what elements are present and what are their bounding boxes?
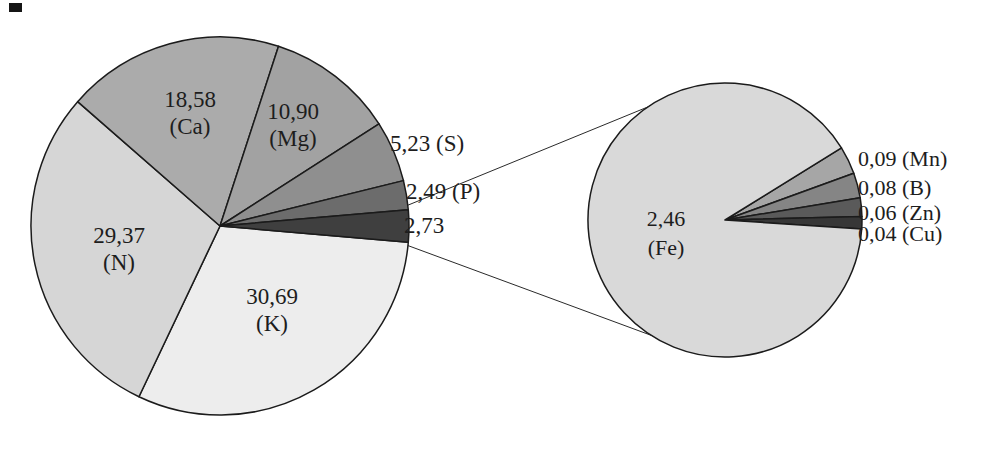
label-s-value: 5,23 (S) [390, 131, 464, 156]
label-k-value: 30,69 [246, 284, 298, 309]
label-n-value: 29,37 [93, 223, 145, 248]
figure: 30,69(K)29,37(N)18,58(Ca)10,90(Mg)5,23 (… [0, 0, 990, 450]
label-mg-name: (Mg) [269, 126, 316, 151]
pie-of-pie-chart: 30,69(K)29,37(N)18,58(Ca)10,90(Mg)5,23 (… [0, 0, 990, 450]
secondary-pie [588, 83, 862, 357]
label-ca-name: (Ca) [170, 114, 211, 139]
label-fe-value: 2,46 [647, 206, 686, 231]
label-b-value: 0,08 (B) [858, 175, 931, 200]
main-pie [31, 37, 409, 415]
label-other-value: 2,73 [404, 213, 444, 238]
label-ca-value: 18,58 [164, 87, 216, 112]
scan-artifact-mark [9, 3, 22, 12]
label-mg-value: 10,90 [267, 99, 319, 124]
label-fe-name: (Fe) [648, 235, 685, 260]
label-cu-value: 0,04 (Cu) [858, 221, 942, 246]
label-n-name: (N) [103, 250, 135, 275]
label-p-value: 2,49 (P) [406, 179, 480, 204]
label-k-name: (K) [256, 311, 288, 336]
label-mn-value: 0,09 (Mn) [858, 146, 947, 171]
